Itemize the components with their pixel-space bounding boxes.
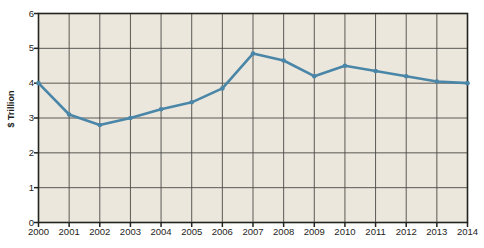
- data-point-marker: [251, 51, 256, 56]
- data-point-marker: [312, 74, 317, 79]
- data-point-marker: [465, 81, 470, 86]
- data-point-marker: [435, 79, 440, 84]
- line-chart: $ Trillion 0123456 200020012002200320042…: [0, 0, 484, 248]
- data-point-marker: [220, 86, 225, 91]
- data-point-marker: [189, 100, 194, 105]
- data-point-marker: [36, 81, 41, 86]
- data-point-marker: [281, 58, 286, 63]
- data-point-marker: [97, 123, 102, 128]
- x-tick-label: 2014: [448, 226, 484, 237]
- data-point-marker: [128, 116, 133, 121]
- data-point-marker: [404, 74, 409, 79]
- data-point-marker: [67, 112, 72, 117]
- x-axis-tick-labels: 2000200120022003200420052006200720082009…: [0, 226, 484, 246]
- data-point-marker: [159, 107, 164, 112]
- data-point-marker: [373, 69, 378, 74]
- data-point-marker: [343, 63, 348, 68]
- plot-area: [0, 0, 484, 248]
